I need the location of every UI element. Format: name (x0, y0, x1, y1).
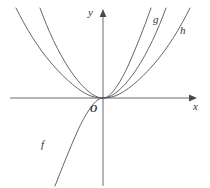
y-axis-label: y (88, 7, 93, 18)
math-figure: y x O f g h (0, 0, 210, 188)
y-axis-arrow-icon (100, 9, 107, 17)
curve-h-label: h (180, 25, 186, 36)
x-axis-label: x (193, 101, 198, 112)
curve-f-label: f (41, 139, 44, 150)
origin-label: O (90, 104, 97, 114)
plot-canvas (0, 0, 210, 188)
curve-g-label: g (153, 14, 159, 25)
